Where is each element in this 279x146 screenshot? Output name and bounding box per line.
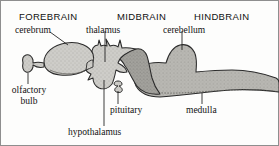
region-header-midbrain: MIDBRAIN	[117, 11, 166, 22]
pituitary-shape	[114, 81, 122, 93]
olfactory-bulb-shape	[23, 55, 44, 73]
region-header-forebrain: FOREBRAIN	[19, 11, 78, 22]
leader-cerebrum	[50, 32, 68, 45]
label-olfactory-bulb: olfactory bulb	[4, 85, 54, 106]
label-medulla: medulla	[186, 105, 217, 116]
label-cerebellum: cerebellum	[163, 25, 205, 36]
label-olfactory-bulb-line1: olfactory	[4, 85, 54, 96]
label-olfactory-bulb-line2: bulb	[4, 96, 54, 107]
label-hypothalamus: hypothalamus	[68, 127, 121, 138]
label-pituitary: pituitary	[110, 105, 142, 116]
label-thalamus: thalamus	[86, 25, 120, 36]
label-cerebrum: cerebrum	[15, 25, 51, 36]
brain-diagram: FOREBRAIN MIDBRAIN HINDBRAIN cerebrum th…	[0, 0, 279, 146]
region-header-hindbrain: HINDBRAIN	[194, 11, 249, 22]
